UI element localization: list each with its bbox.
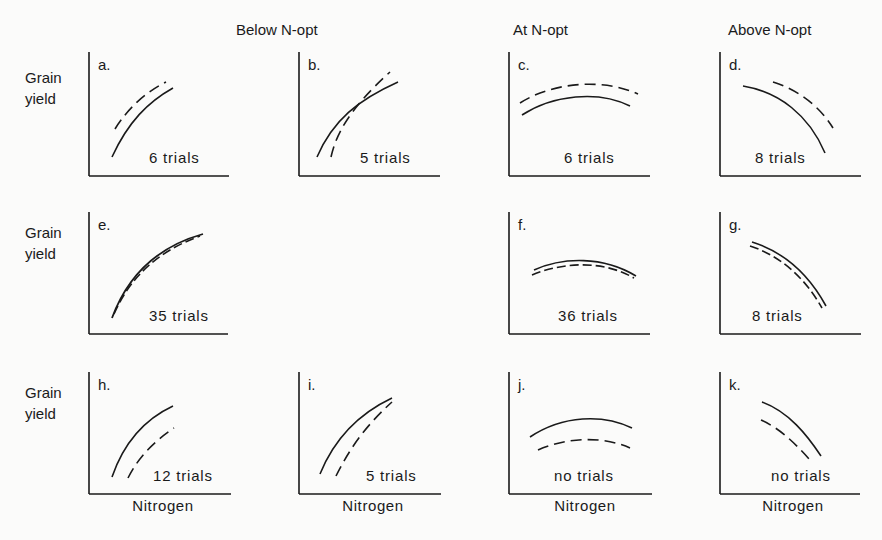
trials-count: 6 trials [149, 149, 200, 166]
y-label-line1: Grain [25, 382, 85, 403]
y-label-line2: yield [25, 88, 85, 109]
x-axis-label-col3: Nitrogen [515, 497, 655, 514]
panel-letter: d. [729, 56, 742, 73]
panel-letter: c. [518, 56, 530, 73]
panel-k: k. no trials [719, 370, 864, 500]
trials-count: no trials [554, 467, 614, 484]
panel-c: c. 6 trials [508, 50, 653, 180]
column-header-below-nopt: Below N-opt [236, 21, 318, 38]
panel-g: g. 8 trials [719, 210, 864, 340]
x-axis-label-col1: Nitrogen [93, 497, 233, 514]
panel-d: d. 8 trials [719, 50, 864, 180]
panel-letter: j. [518, 376, 526, 393]
x-axis-label-col2: Nitrogen [303, 497, 443, 514]
panel-a: a. 6 trials [88, 50, 233, 180]
panel-letter: b. [308, 56, 321, 73]
trials-count: 5 trials [366, 467, 417, 484]
y-label-line1: Grain [25, 222, 85, 243]
panel-letter: a. [98, 56, 111, 73]
y-label-line2: yield [25, 243, 85, 264]
trials-count: 8 trials [752, 307, 803, 324]
trials-count: 35 trials [149, 307, 209, 324]
trials-count: 36 trials [558, 307, 618, 324]
trials-count: no trials [771, 467, 831, 484]
y-axis-label-row3: Grain yield [25, 382, 85, 424]
y-axis-label-row2: Grain yield [25, 222, 85, 264]
y-axis-label-row1: Grain yield [25, 67, 85, 109]
panel-i: i. 5 trials [298, 370, 443, 500]
panel-letter: k. [729, 376, 741, 393]
panel-j: j. no trials [508, 370, 653, 500]
panel-letter: i. [308, 376, 316, 393]
trials-count: 12 trials [153, 467, 213, 484]
panel-b: b. 5 trials [298, 50, 443, 180]
trials-count: 8 trials [755, 149, 806, 166]
trials-count: 6 trials [564, 149, 615, 166]
x-axis-label-col4: Nitrogen [723, 497, 863, 514]
y-label-line2: yield [25, 403, 85, 424]
panel-letter: e. [98, 216, 111, 233]
panel-f: f. 36 trials [508, 210, 653, 340]
y-label-line1: Grain [25, 67, 85, 88]
panel-letter: f. [518, 216, 526, 233]
panel-letter: h. [98, 376, 111, 393]
column-header-above-nopt: Above N-opt [728, 21, 811, 38]
panel-h: h. 12 trials [88, 370, 233, 500]
panel-letter: g. [729, 216, 742, 233]
trials-count: 5 trials [360, 149, 411, 166]
column-header-at-nopt: At N-opt [513, 21, 568, 38]
panel-e: e. 35 trials [88, 210, 233, 340]
